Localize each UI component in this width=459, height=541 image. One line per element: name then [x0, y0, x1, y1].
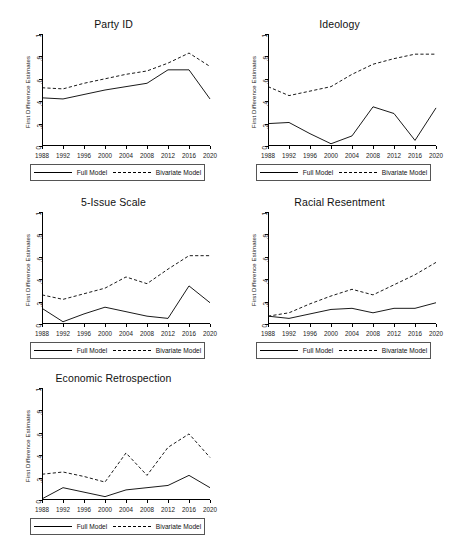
series-layer	[268, 212, 436, 324]
chart-title: Economic Retrospection	[6, 372, 221, 384]
chart-title: Racial Resentment	[232, 196, 447, 208]
plot-canvas: 0.2.4.6.81	[42, 388, 210, 500]
x-axis-tick-label: 2000	[324, 330, 338, 337]
x-axis-tick	[210, 500, 211, 503]
legend-item-full-model: Full Model	[34, 169, 107, 176]
x-axis-tick-label: 2016	[408, 152, 422, 159]
y-axis-label: First Difference Estimates	[24, 40, 31, 144]
legend-item-bivariate-model: Bivariate Model	[113, 523, 201, 530]
chart-legend: Full Model Bivariate Model	[256, 342, 431, 359]
series-line-solid	[268, 107, 436, 144]
solid-line-icon	[260, 172, 298, 173]
legend-item-full-model: Full Model	[34, 347, 107, 354]
x-axis-tick-label: 2016	[182, 152, 196, 159]
plot-canvas: 0.2.4.6.81	[268, 212, 436, 324]
legend-label: Bivariate Model	[382, 347, 427, 354]
series-layer	[268, 34, 436, 146]
chart-title: 5-Issue Scale	[6, 196, 221, 208]
x-axis-tick-label: 1996	[303, 330, 317, 337]
solid-line-icon	[34, 172, 72, 173]
x-axis-tick-label: 2020	[203, 330, 217, 337]
plot-canvas: 0.2.4.6.81	[42, 34, 210, 146]
x-axis-tick-label: 2004	[345, 330, 359, 337]
x-axis-tick-label: 2020	[429, 152, 443, 159]
chart-panel-5-issue-scale: 5-Issue Scale First Difference Estimates…	[6, 196, 221, 376]
x-axis-tick-label: 1996	[77, 506, 91, 513]
solid-line-icon	[260, 350, 298, 351]
series-line-solid	[268, 303, 436, 319]
legend-item-bivariate-model: Bivariate Model	[113, 347, 201, 354]
x-axis-labels: 198819921996200020042008201220162020	[268, 326, 436, 338]
chart-panel-party-id: Party ID First Difference Estimates 0.2.…	[6, 18, 221, 198]
legend-label: Full Model	[303, 169, 333, 176]
x-axis-tick-label: 2008	[140, 506, 154, 513]
plot-area: First Difference Estimates 0.2.4.6.81 19…	[232, 210, 447, 330]
y-axis-label: First Difference Estimates	[24, 218, 31, 322]
series-line-dashed	[42, 53, 210, 89]
x-axis-tick-label: 2012	[161, 152, 175, 159]
chart-legend: Full Model Bivariate Model	[30, 342, 205, 359]
solid-line-icon	[34, 526, 72, 527]
legend-item-bivariate-model: Bivariate Model	[113, 169, 201, 176]
x-axis-labels: 198819921996200020042008201220162020	[42, 148, 210, 160]
x-axis-tick-label: 1996	[303, 152, 317, 159]
x-axis-tick-label: 2012	[387, 330, 401, 337]
x-axis-tick-label: 2020	[429, 330, 443, 337]
x-axis-tick-label: 1992	[56, 506, 70, 513]
figure-panel-grid: Party ID First Difference Estimates 0.2.…	[0, 0, 459, 541]
x-axis-tick-label: 2004	[119, 152, 133, 159]
x-axis-tick-label: 2000	[98, 330, 112, 337]
x-axis-tick-label: 1992	[282, 330, 296, 337]
legend-item-full-model: Full Model	[34, 523, 107, 530]
x-axis-labels: 198819921996200020042008201220162020	[268, 148, 436, 160]
x-axis-tick-label: 2020	[203, 152, 217, 159]
series-line-solid	[42, 475, 210, 499]
x-axis-tick-label: 1988	[35, 506, 49, 513]
x-axis-tick-label: 2004	[345, 152, 359, 159]
x-axis-tick-label: 2012	[161, 506, 175, 513]
y-axis-label: First Difference Estimates	[250, 40, 257, 144]
x-axis-labels: 198819921996200020042008201220162020	[42, 502, 210, 514]
x-axis-tick-label: 2004	[119, 330, 133, 337]
legend-item-full-model: Full Model	[260, 347, 333, 354]
series-line-solid	[42, 286, 210, 322]
plot-area: First Difference Estimates 0.2.4.6.81 19…	[6, 210, 221, 330]
x-axis-tick-label: 2016	[182, 330, 196, 337]
x-axis-tick-label: 2008	[366, 330, 380, 337]
plot-canvas: 0.2.4.6.81	[268, 34, 436, 146]
series-layer	[42, 388, 210, 500]
x-axis-tick-label: 1988	[35, 330, 49, 337]
legend-item-bivariate-model: Bivariate Model	[339, 347, 427, 354]
chart-title: Party ID	[6, 18, 221, 30]
x-axis-tick-label: 2016	[408, 330, 422, 337]
x-axis-tick-label: 2000	[98, 152, 112, 159]
x-axis-tick-label: 2000	[98, 506, 112, 513]
x-axis-tick-label: 1988	[261, 152, 275, 159]
plot-area: First Difference Estimates 0.2.4.6.81 19…	[6, 386, 221, 506]
chart-legend: Full Model Bivariate Model	[256, 164, 431, 181]
series-line-dashed	[42, 434, 210, 482]
x-axis-tick-label: 1992	[282, 152, 296, 159]
chart-panel-economic-retrospection: Economic Retrospection First Difference …	[6, 372, 221, 541]
chart-panel-racial-resentment: Racial Resentment First Difference Estim…	[232, 196, 447, 376]
legend-item-full-model: Full Model	[260, 169, 333, 176]
x-axis-labels: 198819921996200020042008201220162020	[42, 326, 210, 338]
series-line-dashed	[268, 54, 436, 95]
x-axis-tick-label: 1996	[77, 330, 91, 337]
legend-label: Bivariate Model	[156, 523, 201, 530]
plot-area: First Difference Estimates 0.2.4.6.81 19…	[232, 32, 447, 152]
x-axis-tick-label: 2008	[366, 152, 380, 159]
dashed-line-icon	[339, 350, 377, 351]
x-axis-tick-label: 2016	[182, 506, 196, 513]
x-axis-tick-label: 2008	[140, 330, 154, 337]
x-axis-tick-label: 2004	[119, 506, 133, 513]
x-axis-tick-label: 1988	[261, 330, 275, 337]
chart-legend: Full Model Bivariate Model	[30, 164, 205, 181]
series-layer	[42, 212, 210, 324]
legend-label: Full Model	[77, 347, 107, 354]
legend-item-bivariate-model: Bivariate Model	[339, 169, 427, 176]
x-axis-tick-label: 1992	[56, 330, 70, 337]
legend-label: Bivariate Model	[156, 169, 201, 176]
x-axis-tick-label: 1992	[56, 152, 70, 159]
x-axis-tick	[436, 146, 437, 149]
